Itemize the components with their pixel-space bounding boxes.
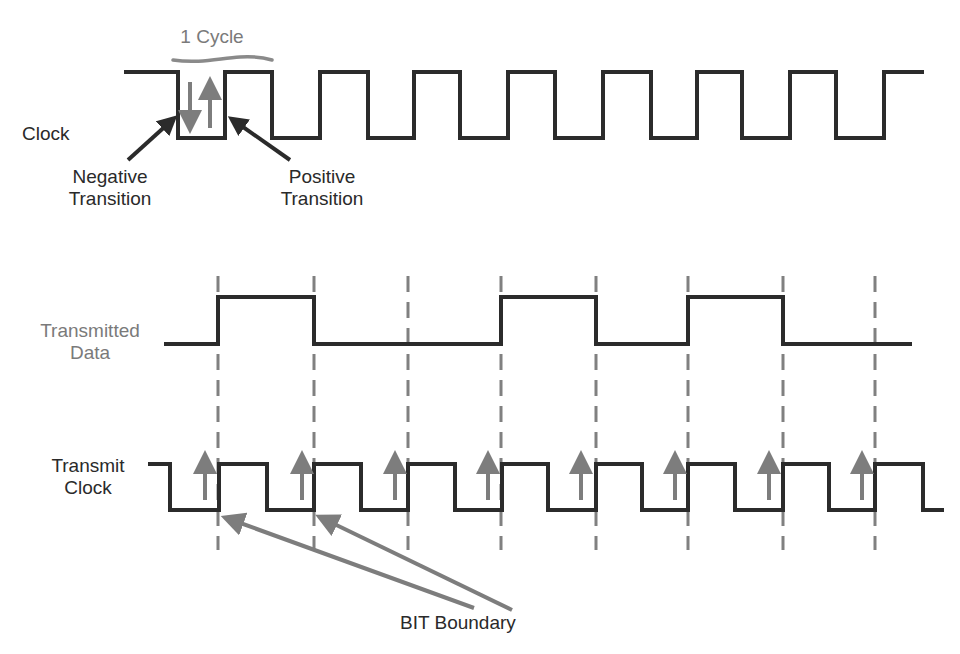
timing-diagram: 1 Cycle Clock Negative Transition Positi… bbox=[0, 0, 960, 654]
clock-label: Clock bbox=[22, 123, 92, 145]
transmitted-data-waveform bbox=[164, 297, 912, 344]
bit-boundary-label: BIT Boundary bbox=[400, 612, 550, 634]
negative-callout-arrow-icon bbox=[128, 122, 170, 160]
cycle-brace bbox=[173, 57, 272, 62]
transmitted-data-label: Transmitted Data bbox=[22, 320, 158, 364]
positive-transition-label: Positive Transition bbox=[262, 166, 382, 210]
transmit-clock-waveform bbox=[148, 464, 944, 510]
negative-transition-label: Negative Transition bbox=[50, 166, 170, 210]
transmit-clock-label: Transmit Clock bbox=[36, 455, 140, 499]
sample-arrows bbox=[205, 462, 862, 500]
cycle-label: 1 Cycle bbox=[166, 26, 258, 48]
positive-callout-arrow-icon bbox=[236, 122, 290, 160]
